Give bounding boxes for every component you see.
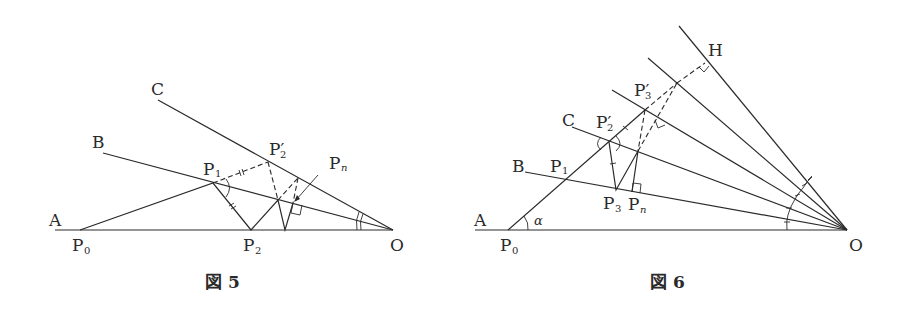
- figure-5: A B C O P 0 P 1 P 2 P′ 2 P n 図 5: [48, 79, 404, 292]
- dashed-reflect-2: [278, 178, 298, 200]
- svg-text:P: P: [603, 193, 614, 213]
- svg-text:0: 0: [512, 245, 518, 256]
- svg-text:2: 2: [255, 245, 261, 256]
- svg-text:n: n: [640, 204, 646, 215]
- ray-oe: [648, 58, 847, 230]
- caption-figure-6: 図 6: [650, 272, 685, 292]
- zigzag-path: [80, 183, 293, 230]
- dashed-to-h: [677, 63, 705, 83]
- right-angle-marker-h: [699, 66, 709, 72]
- svg-text:P: P: [72, 235, 83, 255]
- diagram-canvas: A B C O P 0 P 1 P 2 P′ 2 P n 図 5: [0, 0, 904, 310]
- label-b: B: [92, 132, 105, 152]
- label-o: O: [849, 235, 863, 255]
- label-c: C: [151, 79, 164, 99]
- label-a: A: [48, 210, 62, 230]
- svg-text:2: 2: [607, 122, 613, 133]
- svg-text:P: P: [329, 153, 340, 173]
- ray-oh: [679, 26, 847, 230]
- label-p3: P 3: [603, 193, 621, 214]
- svg-text:P: P: [203, 159, 214, 179]
- ray-oc: [158, 100, 393, 230]
- svg-text:1: 1: [215, 168, 221, 179]
- ray-ob: [103, 153, 393, 230]
- svg-text:P: P: [500, 235, 511, 255]
- label-p2-prime: P′ 2: [596, 112, 613, 133]
- dashed-p3prime-c: [638, 110, 645, 151]
- label-p3-prime: P′ 3: [634, 80, 651, 101]
- label-p0: P 0: [72, 235, 90, 256]
- label-alpha: α: [534, 213, 543, 228]
- svg-text:1: 1: [562, 165, 568, 176]
- label-p1: P 1: [550, 156, 568, 176]
- label-p2-prime: P′ 2: [269, 139, 286, 160]
- svg-text:2: 2: [280, 149, 286, 160]
- angle-arcs-o: [784, 176, 812, 230]
- line-p0-p3prime: [508, 110, 645, 230]
- label-p2: P 2: [243, 235, 261, 256]
- figure-6: A B C H O α P 0 P 1 P′ 2 P′ 3 P 3 P n 図 …: [473, 26, 863, 292]
- svg-text:n: n: [341, 162, 347, 173]
- label-pn: P n: [329, 153, 347, 173]
- svg-text:P: P: [628, 194, 639, 214]
- svg-text:P: P: [243, 235, 254, 255]
- label-b: B: [512, 156, 525, 176]
- ray-oc: [572, 127, 847, 230]
- label-o: O: [390, 235, 404, 255]
- angle-arc-p1: [226, 179, 230, 197]
- svg-text:3: 3: [615, 203, 621, 214]
- angle-arc-p2prime-left: [598, 137, 602, 150]
- dashed-p2prime-down: [268, 162, 278, 200]
- label-p1: P 1: [203, 159, 221, 179]
- svg-text:P: P: [550, 156, 561, 176]
- angle-arc-alpha: [524, 216, 528, 230]
- label-a: A: [473, 210, 487, 230]
- svg-text:0: 0: [84, 245, 90, 256]
- svg-text:3: 3: [645, 90, 651, 101]
- caption-figure-5: 図 5: [205, 272, 240, 292]
- label-p0: P 0: [500, 235, 518, 256]
- label-c: C: [562, 110, 575, 130]
- label-pn: P n: [628, 194, 646, 215]
- label-h: H: [708, 40, 723, 60]
